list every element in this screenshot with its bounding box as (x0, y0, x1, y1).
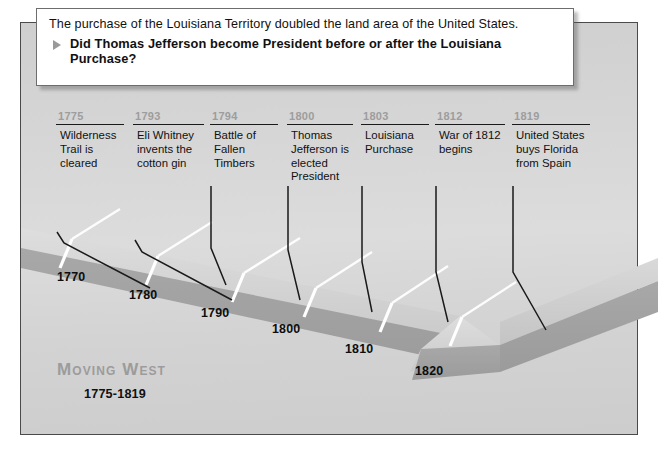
graphic-title: Moving West (57, 360, 166, 380)
event-text-1819: United States buys Florida from Spain (512, 125, 590, 170)
decade-label-1820: 1820 (415, 364, 443, 378)
event-year-1803: 1803 (363, 110, 429, 122)
event-text-1793: Eli Whitney invents the cotton gin (133, 125, 204, 170)
decade-label-1780: 1780 (129, 288, 157, 302)
event-box-1819[interactable]: 1819 United States buys Florida from Spa… (512, 110, 590, 170)
decade-label-1810: 1810 (345, 342, 373, 356)
event-box-1793[interactable]: 1793 Eli Whitney invents the cotton gin (133, 110, 204, 170)
event-year-1775: 1775 (58, 110, 124, 122)
event-text-1800: Thomas Jefferson is elected President (287, 125, 353, 184)
triangle-right-icon (53, 40, 61, 50)
graphic-date-range: 1775-1819 (84, 387, 146, 401)
decade-label-1770: 1770 (57, 270, 85, 284)
callout-question-row: Did Thomas Jefferson become President be… (49, 36, 563, 67)
callout-question-text: Did Thomas Jefferson become President be… (70, 36, 563, 67)
callout-box: The purchase of the Louisiana Territory … (36, 8, 574, 86)
decade-label-1800: 1800 (272, 322, 300, 336)
event-year-1794: 1794 (212, 110, 278, 122)
callout-lead-text: The purchase of the Louisiana Territory … (49, 17, 563, 33)
event-year-1800: 1800 (289, 110, 353, 122)
band-main (21, 228, 500, 380)
event-text-1794: Battle of Fallen Timbers (210, 125, 278, 170)
event-text-1775: Wilderness Trail is cleared (56, 125, 124, 170)
event-year-1793: 1793 (135, 110, 204, 122)
timeline-infographic: The purchase of the Louisiana Territory … (0, 0, 658, 456)
event-box-1800[interactable]: 1800 Thomas Jefferson is elected Preside… (287, 110, 353, 184)
event-year-1812: 1812 (437, 110, 505, 122)
event-box-1812[interactable]: 1812 War of 1812 begins (435, 110, 505, 157)
event-year-1819: 1819 (514, 110, 590, 122)
event-text-1803: Louisiana Purchase (361, 125, 429, 157)
event-box-1775[interactable]: 1775 Wilderness Trail is cleared (56, 110, 124, 170)
event-text-1812: War of 1812 begins (435, 125, 505, 157)
decade-label-1790: 1790 (201, 306, 229, 320)
band-tail (500, 258, 658, 372)
event-box-1794[interactable]: 1794 Battle of Fallen Timbers (210, 110, 278, 170)
event-box-1803[interactable]: 1803 Louisiana Purchase (361, 110, 429, 157)
